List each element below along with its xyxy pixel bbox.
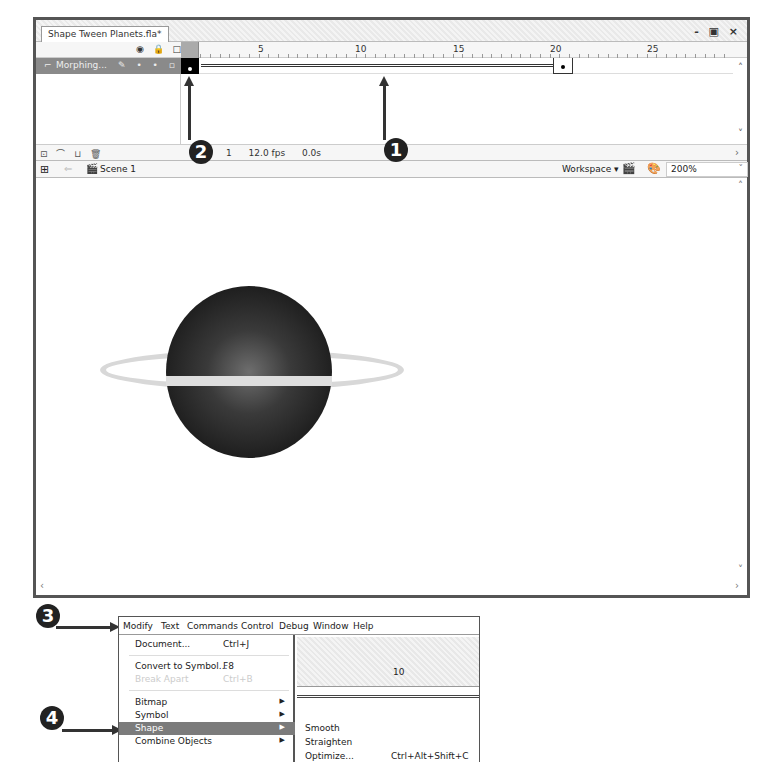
timeline-scroll-down-icon[interactable]: ˅ — [738, 128, 743, 139]
menu-control[interactable]: Control — [241, 621, 274, 631]
menu-item-break-apart: Break Apart Ctrl+B — [119, 673, 295, 686]
timeline-scroll-up-icon[interactable]: ˄ — [738, 62, 743, 73]
layer-frames[interactable] — [181, 58, 733, 74]
edit-bar: ⊞ ⇐ 🎬 Scene 1 Workspace ▾ 🎬 🎨 200% ˅ — [36, 160, 747, 178]
stage-scroll-up-icon[interactable]: ˄ — [738, 180, 743, 191]
background-timeline: 10 — [297, 637, 479, 687]
window-controls[interactable]: - ▣ × — [694, 25, 741, 38]
background-tween-line — [297, 695, 479, 698]
menu-separator — [129, 655, 289, 656]
frame-number: 15 — [453, 44, 464, 54]
menu-item-combine-objects[interactable]: Combine Objects ▶ — [119, 735, 295, 748]
callout-arrow-4 — [62, 729, 114, 732]
chevron-down-icon: ˅ — [739, 163, 744, 173]
frame-number: 10 — [355, 44, 366, 54]
menu-item-document[interactable]: Document... Ctrl+J — [119, 638, 295, 651]
menu-modify[interactable]: Modify — [123, 621, 153, 631]
callout-arrow-2 — [188, 84, 191, 140]
frame-number: 5 — [258, 44, 264, 54]
submenu-arrow-icon: ▶ — [280, 736, 285, 744]
menu-separator — [129, 690, 289, 691]
frame-number: 25 — [647, 44, 658, 54]
planet-sphere — [166, 286, 332, 458]
layer-list-area — [36, 74, 181, 144]
callout-arrow-3 — [56, 626, 112, 629]
stage-scroll-left-icon[interactable]: ‹ — [40, 580, 44, 591]
layer-buttons[interactable]: ⊡ ⌒ ⊔ 🗑 — [40, 147, 104, 160]
menu-text[interactable]: Text — [161, 621, 179, 631]
callout-arrow-1 — [383, 84, 386, 140]
frame-number: 10 — [393, 667, 404, 677]
layer-name: Morphing... — [56, 60, 107, 70]
menu-debug[interactable]: Debug — [279, 621, 309, 631]
submenu-arrow-icon: ▶ — [280, 710, 285, 718]
current-frame: 1 — [226, 148, 232, 158]
frame-rate: 12.0 fps — [249, 148, 285, 158]
callout-badge-4: 4 — [40, 706, 64, 730]
zoom-select[interactable]: 200% ˅ — [666, 162, 748, 177]
stage[interactable]: ˄ ˅ ‹ › — [36, 178, 747, 595]
back-arrow-icon[interactable]: ⇐ — [64, 163, 72, 174]
modify-dropdown: Document... Ctrl+J Convert to Symbol... … — [119, 635, 295, 762]
menu-window[interactable]: Window — [313, 621, 349, 631]
callout-badge-2: 2 — [189, 140, 213, 164]
keyframe-1[interactable] — [181, 58, 199, 74]
submenu-item-smooth[interactable]: Smooth — [305, 723, 480, 733]
modify-menu-screenshot: Modify Text Commands Control Debug Windo… — [118, 616, 480, 762]
timeline-scroll-right-icon[interactable]: › — [735, 147, 739, 158]
edit-scene-symbol-icons[interactable]: 🎬 🎨 — [622, 162, 666, 175]
callout-badge-3: 3 — [36, 604, 60, 628]
layer-row-morphing[interactable]: ⌐ Morphing... ✎ • • ▫ — [36, 58, 181, 74]
zoom-value: 200% — [671, 164, 697, 174]
stage-scroll-down-icon[interactable]: ˅ — [738, 564, 743, 575]
frame-number: 20 — [550, 44, 561, 54]
menu-help[interactable]: Help — [353, 621, 374, 631]
submenu-arrow-icon: ▶ — [280, 697, 285, 705]
keyframe-20[interactable] — [553, 58, 573, 74]
document-titlebar: Shape Tween Planets.fla* - ▣ × — [36, 20, 747, 42]
submenu-item-straighten[interactable]: Straighten — [305, 737, 480, 747]
document-tab[interactable]: Shape Tween Planets.fla* — [41, 26, 169, 43]
submenu-item-optimize[interactable]: Optimize... Ctrl+Alt+Shift+C — [305, 751, 480, 761]
menu-item-shape[interactable]: Shape ▶ — [119, 722, 295, 735]
scene-label[interactable]: Scene 1 — [100, 164, 136, 174]
shape-tween-span[interactable] — [201, 64, 553, 67]
scene-clapper-icon: 🎬 — [86, 163, 98, 174]
frame-ruler[interactable]: 1 5 10 15 20 25 — [181, 42, 747, 58]
workspace-menu[interactable]: Workspace ▾ — [562, 164, 619, 174]
menu-item-convert-to-symbol[interactable]: Convert to Symbol... F8 — [119, 660, 295, 673]
timeline-status: 1 12.0 fps 0.0s — [226, 148, 335, 158]
stage-scroll-right-icon[interactable]: › — [735, 580, 739, 591]
menu-commands[interactable]: Commands — [187, 621, 238, 631]
menu-item-symbol[interactable]: Symbol ▶ — [119, 709, 295, 722]
submenu-arrow-icon: ▶ — [280, 723, 285, 731]
planet-graphic[interactable] — [100, 286, 410, 466]
timeline-header: ◉ 🔒 □ 1 5 10 15 20 25 — [36, 42, 747, 58]
layer-visibility-lock-outline-icons[interactable]: ◉ 🔒 □ — [136, 44, 184, 54]
timeline-toggle-icon[interactable]: ⊞ — [40, 163, 49, 176]
callout-badge-1: 1 — [384, 138, 408, 162]
flash-document-window: Shape Tween Planets.fla* - ▣ × ◉ 🔒 □ 1 5… — [33, 17, 750, 598]
planet-ring-front — [166, 376, 332, 386]
layer-controls[interactable]: ✎ • • ▫ — [118, 60, 179, 70]
menu-item-bitmap[interactable]: Bitmap ▶ — [119, 696, 295, 709]
playhead[interactable] — [181, 42, 199, 58]
layer-icon: ⌐ — [44, 60, 52, 70]
elapsed-time: 0.0s — [302, 148, 321, 158]
menubar: Modify Text Commands Control Debug Windo… — [119, 617, 479, 635]
